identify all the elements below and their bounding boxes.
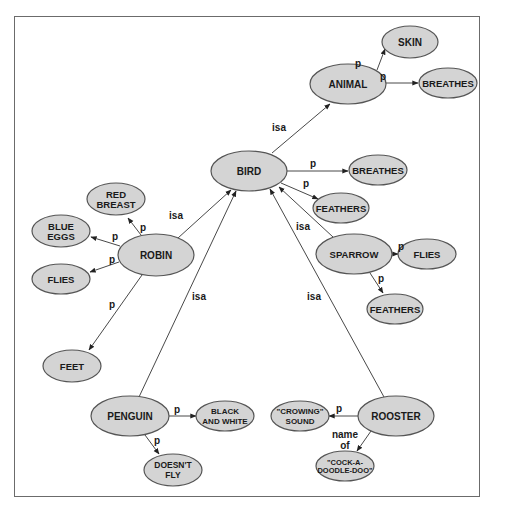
semantic-network-diagram: ANIMALSKINBREATHESBIRDBREATHESFEATHERSRE… [0, 0, 505, 516]
edge-label-rooster-to-cock-a-doodle-doo: nameof [332, 428, 359, 450]
node-label: ROOSTER [371, 411, 421, 422]
edge-label-sparrow-to-sparrow-feathers: p [378, 273, 384, 284]
edge-robin-to-feet [89, 275, 142, 350]
node-sparrow-feathers: FEATHERS [367, 294, 423, 324]
edge-label-rooster-to-crowing-sound: p [336, 403, 342, 414]
node-feet: FEET [43, 350, 101, 382]
edge-label-robin-to-robin-flies: p [109, 254, 115, 265]
edge-label-penguin-to-bird: isa [192, 291, 206, 302]
node-sparrow: SPARROW [316, 234, 392, 274]
node-label: BLUEEGGS [47, 220, 74, 242]
node-label: FLIES [414, 249, 441, 260]
edge-label-rooster-to-bird: isa [307, 291, 321, 302]
edge-robin-to-bird [178, 190, 231, 238]
arrow-line [89, 275, 142, 350]
node-animal: ANIMAL [310, 64, 386, 104]
edge-label-bird-to-bird-feathers: p [303, 178, 309, 189]
edge-label-sparrow-to-bird: isa [296, 221, 310, 232]
edge-label-robin-to-feet: p [109, 299, 115, 310]
arrow-line [281, 183, 318, 199]
node-label: ANIMAL [329, 79, 368, 90]
edge-label-sparrow-to-sparrow-flies: p [398, 241, 404, 252]
node-label: SPARROW [330, 249, 379, 260]
node-animal-breathes: BREATHES [419, 68, 477, 98]
node-crowing-sound: "CROWING"SOUND [271, 401, 329, 431]
edge-label-animal-to-skin: p [355, 58, 361, 69]
node-label: BREATHES [422, 78, 474, 89]
arrow-line [139, 191, 236, 397]
edge-rooster-to-cock-a-doodle-doo [357, 431, 371, 451]
edge-label-bird-to-animal: isa [272, 122, 286, 133]
edge-label-penguin-to-doesnt-fly: p [154, 435, 160, 446]
node-robin-flies: FLIES [32, 264, 90, 294]
edge-penguin-to-bird [139, 191, 236, 397]
node-robin: ROBIN [118, 234, 194, 276]
edge-label-robin-to-bird: isa [169, 210, 183, 221]
arrow-line [357, 431, 371, 451]
node-red-breast: REDBREAST [87, 183, 145, 215]
node-label: FLIES [48, 274, 75, 285]
nodes-layer: ANIMALSKINBREATHESBIRDBREATHESFEATHERSRE… [32, 26, 477, 486]
edge-label-animal-to-animal-breathes: p [380, 71, 386, 82]
edge-label-bird-to-bird-breathes: p [310, 158, 316, 169]
node-penguin: PENGUIN [91, 396, 169, 436]
node-label: FEET [60, 361, 84, 372]
arrow-line [178, 190, 231, 238]
node-black-and-white: BLACKAND WHITE [196, 401, 254, 431]
edge-label-robin-to-blue-eggs: p [112, 231, 118, 242]
node-label: PENGUIN [107, 411, 153, 422]
node-label: BREATHES [352, 165, 404, 176]
edge-label-penguin-to-black-and-white: p [174, 404, 180, 415]
edge-animal-to-skin [377, 49, 385, 70]
arrow-line [377, 49, 385, 70]
node-label: FEATHERS [316, 203, 367, 214]
node-bird-feathers: FEATHERS [313, 193, 369, 223]
node-rooster: ROOSTER [358, 396, 434, 436]
edge-bird-to-bird-feathers [281, 183, 318, 199]
node-label: FEATHERS [370, 304, 421, 315]
node-cock-a-doodle-doo: "COCK-A-DOODLE-DOO" [316, 451, 374, 481]
node-skin: SKIN [382, 26, 438, 58]
edge-label-robin-to-red-breast: p [140, 222, 146, 233]
node-label: ROBIN [140, 250, 172, 261]
node-sparrow-flies: FLIES [398, 239, 456, 269]
node-blue-eggs: BLUEEGGS [32, 215, 90, 247]
node-bird: BIRD [211, 151, 287, 191]
node-bird-breathes: BREATHES [349, 155, 407, 185]
node-label: BIRD [237, 166, 261, 177]
node-label: SKIN [398, 37, 422, 48]
node-doesnt-fly: DOESN'TFLY [144, 454, 202, 486]
